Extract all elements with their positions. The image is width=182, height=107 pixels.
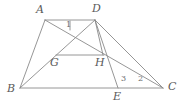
vertex-label-A: A (36, 4, 44, 15)
vertex-label-H: H (95, 57, 105, 68)
segment-DC (95, 20, 163, 88)
geometry-canvas (0, 0, 182, 107)
vertex-label-B: B (7, 83, 15, 94)
vertex-label-C: C (168, 81, 176, 92)
angle-label-2: 2 (138, 75, 143, 83)
geometry-figure: A D B C E G H 1 3 2 (0, 0, 182, 107)
angle-label-3: 3 (121, 75, 126, 83)
angle-label-1: 1 (66, 21, 71, 29)
segment-BD (20, 20, 95, 88)
segment-AB (20, 20, 45, 88)
vertex-label-D: D (92, 3, 101, 14)
vertex-label-G: G (50, 57, 59, 68)
vertex-label-E: E (113, 91, 121, 102)
segment-DE (95, 20, 118, 88)
segment-AC (45, 20, 163, 88)
